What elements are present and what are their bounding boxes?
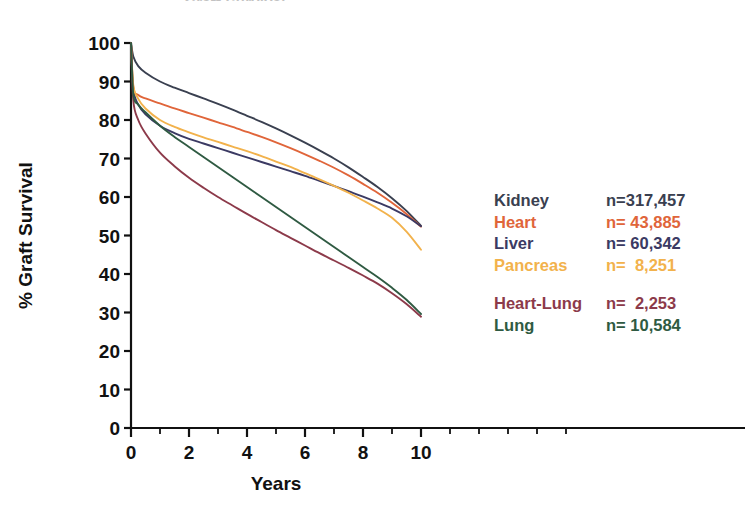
graft-survival-figure: Graft Survival 0102030405060708090100024… bbox=[0, 0, 745, 511]
y-tick-label: 70 bbox=[99, 149, 120, 170]
legend-row: Livern= 60,342 bbox=[494, 233, 744, 255]
legend-series-count: n= 2,253 bbox=[606, 293, 676, 315]
x-tick-label: 2 bbox=[184, 442, 195, 463]
legend-row: Pancreasn= 8,251 bbox=[494, 255, 744, 277]
x-tick-label: 4 bbox=[242, 442, 253, 463]
legend-series-count: n=317,457 bbox=[606, 190, 685, 212]
curve-lung bbox=[131, 43, 421, 314]
survival-curves bbox=[131, 43, 421, 317]
y-tick-label: 40 bbox=[99, 264, 120, 285]
y-tick-label: 80 bbox=[99, 110, 120, 131]
legend-series-count: n= 43,885 bbox=[606, 212, 681, 234]
y-tick-label: 30 bbox=[99, 303, 120, 324]
legend-series-count: n= 10,584 bbox=[606, 315, 681, 337]
y-tick-label: 50 bbox=[99, 226, 120, 247]
legend-series-name: Pancreas bbox=[494, 255, 606, 277]
legend-series-name: Heart bbox=[494, 212, 606, 234]
y-tick-label: 20 bbox=[99, 341, 120, 362]
legend-series-name: Lung bbox=[494, 315, 606, 337]
legend-series-count: n= 8,251 bbox=[606, 255, 676, 277]
x-axis-title: Years bbox=[251, 473, 302, 494]
legend-series-name: Liver bbox=[494, 233, 606, 255]
x-tick-label: 8 bbox=[358, 442, 369, 463]
y-tick-label: 0 bbox=[109, 418, 120, 439]
legend-series-name: Kidney bbox=[494, 190, 606, 212]
y-axis-title: % Graft Survival bbox=[15, 162, 36, 309]
legend-series-count: n= 60,342 bbox=[606, 233, 681, 255]
chart-legend: Kidneyn=317,457Heartn= 43,885Livern= 60,… bbox=[494, 190, 744, 336]
curve-pancreas bbox=[131, 43, 421, 250]
y-tick-label: 60 bbox=[99, 187, 120, 208]
axis-labels: 01020304050607080901000246810Years% Graf… bbox=[15, 33, 432, 494]
x-tick-label: 10 bbox=[410, 442, 431, 463]
legend-row: Kidneyn=317,457 bbox=[494, 190, 744, 212]
legend-series-name: Heart-Lung bbox=[494, 293, 606, 315]
y-tick-label: 10 bbox=[99, 380, 120, 401]
x-tick-label: 6 bbox=[300, 442, 311, 463]
curve-heart bbox=[131, 43, 421, 227]
curve-heart-lung bbox=[131, 43, 421, 317]
curve-kidney bbox=[131, 43, 421, 226]
legend-row: Heart-Lungn= 2,253 bbox=[494, 293, 744, 315]
x-tick-label: 0 bbox=[126, 442, 137, 463]
y-tick-label: 90 bbox=[99, 72, 120, 93]
y-tick-label: 100 bbox=[88, 33, 120, 54]
legend-row: Heartn= 43,885 bbox=[494, 212, 744, 234]
legend-row: Lungn= 10,584 bbox=[494, 315, 744, 337]
curve-liver bbox=[131, 43, 421, 226]
